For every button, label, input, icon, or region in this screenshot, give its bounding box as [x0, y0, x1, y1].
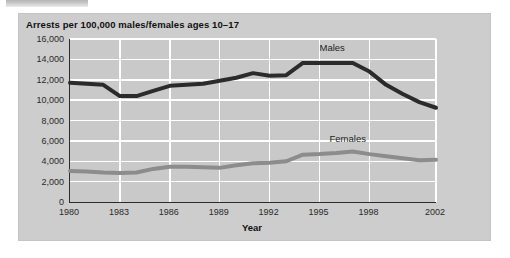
series-label-females: Females: [330, 133, 366, 144]
x-axis-title: Year: [69, 222, 435, 233]
y-tick-label: 10,000: [36, 95, 64, 105]
y-tick-label: 8,000: [41, 116, 64, 126]
x-tick-label: 1983: [109, 207, 129, 217]
y-tick-label: 6,000: [41, 136, 64, 146]
y-tick-label: 14,000: [36, 54, 64, 64]
x-tick-label: 2002: [425, 207, 445, 217]
series-label-males: Males: [320, 42, 345, 53]
top-crop-bar: [6, 0, 88, 7]
y-tick-label: 4,000: [41, 156, 64, 166]
figure-panel: Arrests per 100,000 males/females ages 1…: [18, 13, 491, 241]
series-line-females: [70, 152, 436, 173]
series-line-males: [70, 63, 436, 108]
y-tick-label: 2,000: [41, 177, 64, 187]
plot-area: Males Females: [69, 39, 436, 203]
chart-title: Arrests per 100,000 males/females ages 1…: [26, 19, 239, 30]
y-axis-tick-labels: 16,00014,00012,00010,0008,0006,0004,0002…: [18, 39, 64, 202]
chart-lines-svg: [70, 39, 436, 202]
x-tick-label: 1995: [309, 207, 329, 217]
x-tick-label: 1992: [259, 207, 279, 217]
x-tick-label: 1998: [358, 207, 378, 217]
y-tick-label: 12,000: [36, 75, 64, 85]
x-tick-label: 1989: [209, 207, 229, 217]
x-axis-tick-labels: 19801983198619891992199519982002: [69, 207, 437, 221]
y-tick-label: 16,000: [36, 34, 64, 44]
x-tick-label: 1980: [59, 207, 79, 217]
y-tick-label: 0: [59, 197, 64, 207]
x-tick-label: 1986: [159, 207, 179, 217]
